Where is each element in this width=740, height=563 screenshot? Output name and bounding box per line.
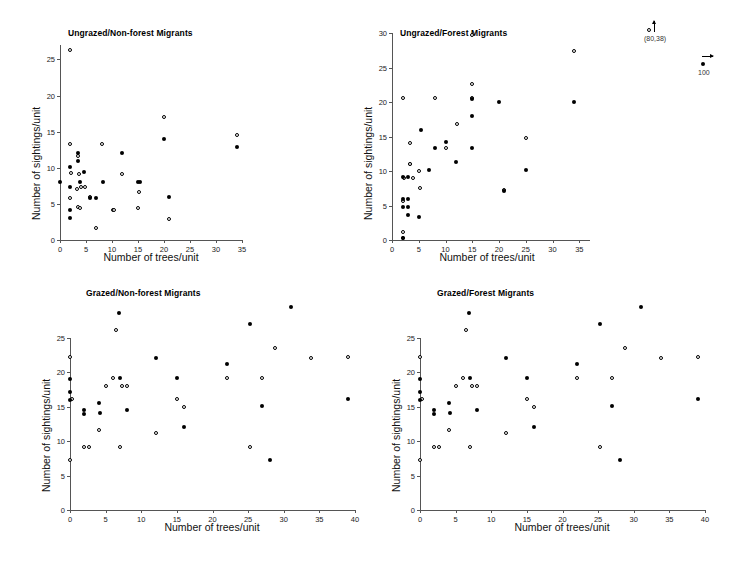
data-point-filled	[575, 362, 579, 366]
data-point-open	[162, 115, 166, 119]
y-axis-tick	[389, 206, 392, 207]
data-point-open	[470, 82, 474, 86]
data-point-open	[87, 445, 91, 449]
x-axis-tick-label: 10	[487, 515, 495, 524]
data-point-filled	[696, 397, 700, 401]
data-point-open	[235, 133, 239, 137]
data-point-filled	[235, 145, 239, 149]
x-axis-tick	[598, 510, 599, 513]
data-point-filled	[497, 100, 501, 104]
x-axis-tick-label: 0	[58, 245, 62, 254]
data-point-filled	[98, 411, 102, 415]
data-point-open	[447, 428, 451, 432]
data-point-open	[175, 397, 179, 401]
data-point-filled	[432, 412, 436, 416]
data-point-filled	[470, 97, 474, 101]
data-point-filled	[502, 189, 506, 193]
y-axis-tick-label: 20	[370, 98, 387, 107]
data-point-filled	[82, 170, 86, 174]
data-point-open	[69, 171, 73, 175]
y-axis-tick-label: 25	[370, 63, 387, 72]
data-point-filled	[401, 205, 405, 209]
x-axis-title: Number of trees/unit	[514, 521, 609, 533]
x-axis-tick-label: 30	[630, 515, 638, 524]
four-panel-scatter-figure: Ungrazed/Non-forest Migrants051015202530…	[0, 0, 740, 563]
data-point-open	[182, 405, 186, 409]
x-axis-tick-label: 0	[390, 245, 394, 254]
data-point-open	[696, 355, 700, 359]
annotation-marker-filled-circle	[701, 62, 705, 66]
data-point-open	[248, 445, 252, 449]
x-axis-tick-label: 35	[315, 515, 323, 524]
data-point-filled	[260, 404, 264, 408]
data-point-open	[468, 445, 472, 449]
x-axis-tick	[248, 510, 249, 513]
data-point-open	[408, 162, 412, 166]
y-axis-tick	[57, 132, 60, 133]
x-axis-tick-label: 30	[548, 245, 556, 254]
y-axis-line	[392, 33, 393, 240]
x-axis-tick	[106, 510, 107, 513]
data-point-open	[433, 96, 437, 100]
data-point-filled	[444, 140, 448, 144]
data-point-open	[418, 186, 422, 190]
data-point-filled	[76, 159, 80, 163]
data-point-filled	[401, 175, 405, 179]
y-axis-tick	[389, 102, 392, 103]
data-point-open	[100, 142, 104, 146]
x-axis-tick	[60, 240, 61, 243]
y-axis-tick-label: 25	[48, 334, 65, 343]
y-axis-tick	[389, 171, 392, 172]
y-axis-tick-label: 20	[38, 91, 55, 100]
data-point-open	[136, 206, 140, 210]
panel-title: Grazed/Forest Migrants	[437, 288, 534, 298]
data-point-filled	[248, 322, 252, 326]
x-axis-tick-label: 30	[280, 515, 288, 524]
x-axis-tick	[242, 240, 243, 243]
data-point-filled	[532, 425, 536, 429]
y-axis-tick	[417, 476, 420, 477]
data-point-open	[78, 206, 82, 210]
data-point-open	[260, 376, 264, 380]
y-axis-line	[420, 338, 421, 510]
data-point-filled	[68, 398, 72, 402]
x-axis-tick	[216, 240, 217, 243]
y-axis-tick	[417, 338, 420, 339]
y-axis-title: Number of sightings/unit	[362, 107, 374, 220]
data-point-open	[470, 384, 474, 388]
data-point-filled	[406, 213, 410, 217]
data-point-filled	[289, 305, 293, 309]
x-axis-tick-label: 35	[665, 515, 673, 524]
x-axis-tick	[355, 510, 356, 513]
y-axis-tick-label: 20	[398, 368, 415, 377]
data-point-open	[411, 176, 415, 180]
data-point-filled	[401, 197, 405, 201]
x-axis-tick	[634, 510, 635, 513]
x-axis-tick	[141, 510, 142, 513]
x-axis-tick	[563, 510, 564, 513]
y-axis-title: Number of sightings/unit	[390, 379, 402, 492]
x-axis-tick	[392, 240, 393, 243]
data-point-open	[120, 384, 124, 388]
x-axis-tick-label: 0	[418, 515, 422, 524]
y-axis-tick-label: 0	[48, 506, 65, 515]
data-point-filled	[117, 311, 121, 315]
data-point-open	[167, 217, 171, 221]
x-axis-tick	[705, 510, 706, 513]
data-point-filled	[154, 356, 158, 360]
x-axis-tick-label: 35	[238, 245, 246, 254]
x-axis-tick	[70, 510, 71, 513]
y-axis-tick	[67, 441, 70, 442]
data-point-filled	[468, 376, 472, 380]
data-point-filled	[68, 377, 72, 381]
data-point-open	[68, 458, 72, 462]
data-point-open	[309, 356, 313, 360]
annotation-label: (80,38)	[644, 35, 666, 42]
data-point-open	[68, 48, 72, 52]
x-axis-tick	[456, 510, 457, 513]
data-point-open	[79, 185, 83, 189]
y-axis-tick	[67, 372, 70, 373]
data-point-filled	[138, 180, 142, 184]
data-point-filled	[419, 128, 423, 132]
y-axis-tick	[67, 476, 70, 477]
